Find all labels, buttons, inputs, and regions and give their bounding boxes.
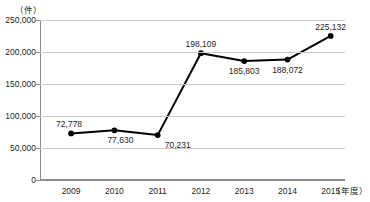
gridline [40, 52, 345, 53]
data-point-label: 225,132 [301, 22, 361, 32]
x-axis-tick-label: 2012 [179, 186, 223, 196]
data-point-marker [241, 58, 247, 64]
data-point-label: 72,778 [39, 119, 99, 129]
data-point-label: 77,630 [90, 135, 150, 145]
y-axis-tick-label: 200,000 [2, 48, 36, 57]
y-axis-tick [36, 52, 40, 53]
y-axis-tick [36, 180, 40, 181]
data-point-label: 198,109 [171, 39, 231, 49]
gridline [40, 84, 345, 85]
x-axis-tick-label: 2009 [49, 186, 93, 196]
data-point-marker [328, 33, 334, 39]
gridline [40, 20, 345, 21]
y-axis-tick-label: 150,000 [2, 80, 36, 89]
clipped-title-text: ‥‥‥‥ ‥‥‥‥‥‥‥ ‥‥‥ [8, 0, 92, 2]
x-axis-tick-label: 2010 [92, 186, 136, 196]
y-axis-tick [36, 84, 40, 85]
y-axis-tick [36, 20, 40, 21]
gridline [40, 116, 345, 117]
data-point-marker [68, 131, 74, 137]
x-axis-tick-label: 2015 [309, 186, 353, 196]
x-axis-tick-label: 2013 [222, 186, 266, 196]
y-axis-tick-label: 100,000 [2, 112, 36, 121]
data-point-marker [155, 132, 161, 138]
data-point-marker [112, 127, 118, 133]
y-axis-unit-label: （件） [8, 5, 42, 15]
data-point-label: 188,072 [258, 65, 318, 75]
y-axis-tick-label: 0 [2, 176, 36, 185]
y-axis-tick-label: 50,000 [2, 144, 36, 153]
clipped-title-strip: ‥‥‥‥ ‥‥‥‥‥‥‥ ‥‥‥ [0, 0, 370, 6]
y-axis-tick [36, 116, 40, 117]
y-axis-tick-label: 250,000 [2, 16, 36, 25]
x-axis-tick-label: 2014 [266, 186, 310, 196]
x-axis-tick-label: 2011 [136, 186, 180, 196]
y-axis-tick [36, 148, 40, 149]
data-point-label: 70,231 [148, 140, 208, 150]
data-point-marker [285, 57, 291, 63]
